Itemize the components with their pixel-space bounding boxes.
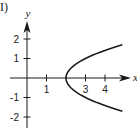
- y-tick-label: 2: [13, 34, 19, 45]
- chart-plot: 13421-1-2xy: [0, 0, 137, 128]
- tick-labels: 13421-1-2xy: [10, 7, 137, 123]
- x-tick-label: 3: [83, 84, 89, 95]
- y-tick-label: -1: [10, 92, 19, 103]
- y-axis-label: y: [25, 7, 31, 19]
- y-tick-label: -2: [10, 112, 19, 123]
- x-axis-label: x: [132, 71, 137, 83]
- x-tick-label: 1: [44, 84, 50, 95]
- x-tick-label: 4: [102, 84, 108, 95]
- y-tick-label: 1: [13, 53, 19, 64]
- axes: [10, 21, 131, 128]
